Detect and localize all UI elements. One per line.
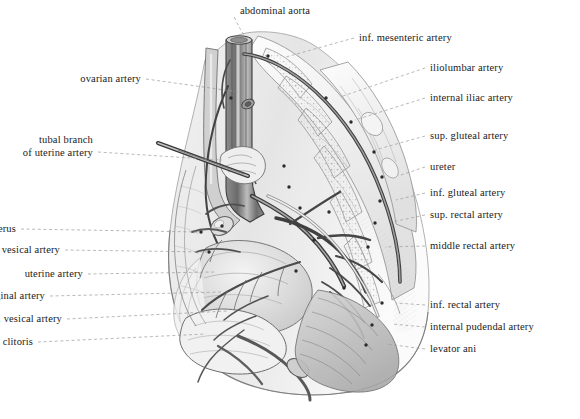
label-inf-mesenteric-artery: inf. mesenteric artery xyxy=(359,32,452,43)
label-ureter: ureter xyxy=(430,161,456,172)
label-tubal-branch-uterine-line2: of uterine artery xyxy=(23,147,94,158)
label-levator-ani: levator ani xyxy=(430,343,476,354)
label-sup-vesical-artery: sup. vesical artery xyxy=(0,244,61,255)
label-inf-gluteal-artery: inf. gluteal artery xyxy=(430,187,506,198)
label-sup-gluteal-artery: sup. gluteal artery xyxy=(430,130,509,141)
label-dorsal-artery-of-clitoris: dorsal artery of clitoris xyxy=(0,336,33,347)
label-sup-rectal-artery: sup. rectal artery xyxy=(430,209,504,220)
label-round-ligament-of-uterus: round ligament of uterus xyxy=(0,223,16,234)
label-tubal-branch-uterine-line1: tubal branch xyxy=(39,134,94,145)
label-inf-vesical-artery: inf. vesical artery xyxy=(0,313,63,324)
label-abdominal-aorta: abdominal aorta xyxy=(240,5,310,16)
label-middle-rectal-artery: middle rectal artery xyxy=(430,240,516,251)
label-internal-iliac-artery: internal iliac artery xyxy=(430,92,514,103)
label-inf-rectal-artery: inf. rectal artery xyxy=(430,299,501,310)
anatomical-illustration: abdominal aortainf. mesenteric arteryova… xyxy=(0,0,580,419)
label-ovarian-artery: ovarian artery xyxy=(80,73,141,84)
label-cervicovaginal-artery: cervicovaginal artery xyxy=(0,290,46,301)
label-uterine-artery: uterine artery xyxy=(25,268,84,279)
label-internal-pudendal-artery: internal pudendal artery xyxy=(430,321,534,332)
label-iliolumbar-artery: iliolumbar artery xyxy=(430,62,504,73)
